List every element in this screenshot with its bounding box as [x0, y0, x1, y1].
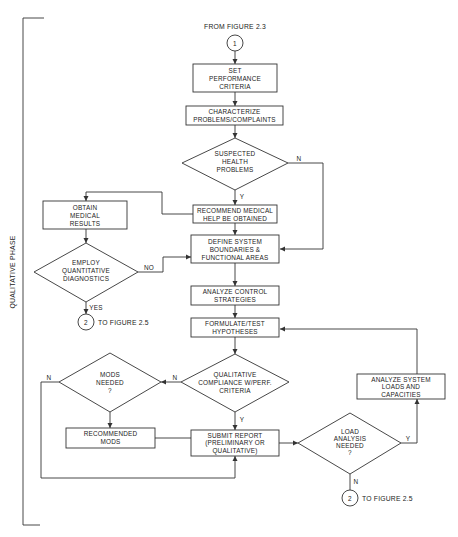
node-text: RESULTS	[70, 220, 100, 227]
node-text: MODS	[101, 438, 121, 445]
node-text: SUSPECTED	[215, 150, 256, 157]
node-analyze-control-strategies: ANALYZE CONTROL STRATEGIES	[191, 286, 279, 305]
node-text: ANALYZE SYSTEM	[371, 376, 431, 383]
node-text: OBTAIN	[73, 204, 98, 211]
node-text: QUANTITATIVE	[62, 267, 110, 275]
connector-to-figure-2-5-bottom: 2 TO FIGURE 2.5	[342, 490, 413, 506]
node-text: NEEDED	[336, 442, 364, 449]
node-text: CRITERIA	[219, 387, 251, 394]
node-define-system-boundaries: DEFINE SYSTEM BOUNDARIES & FUNCTIONAL AR…	[191, 235, 279, 263]
edge-label: N	[47, 374, 52, 381]
edge-label: N	[297, 155, 302, 162]
decision-qualitative-compliance: QUALITATIVE COMPLIANCE W/PERF. CRITERIA	[181, 354, 289, 412]
node-text: LOADS AND	[382, 383, 421, 390]
connector-number: 1	[233, 40, 237, 47]
node-text: COMPLIANCE W/PERF.	[198, 379, 272, 386]
decision-load-analysis-needed: LOAD ANALYSIS NEEDED ?	[298, 413, 401, 474]
node-recommended-mods: RECOMMENDED MODS	[66, 428, 155, 448]
edge-label: Y	[240, 193, 245, 200]
node-text: CAPACITIES	[381, 391, 421, 398]
node-text: NEEDED	[96, 379, 124, 386]
node-set-performance-criteria: SET PERFORMANCE CRITERIA	[193, 64, 277, 92]
node-text: PROBLEMS/COMPLAINTS	[193, 116, 276, 123]
connector-from-figure-2-3: FROM FIGURE 2.3 1	[204, 23, 266, 51]
node-obtain-medical-results: OBTAIN MEDICAL RESULTS	[43, 201, 127, 229]
node-text: SET	[228, 67, 241, 74]
connector-caption: TO FIGURE 2.5	[362, 495, 413, 502]
node-analyze-system-loads: ANALYZE SYSTEM LOADS AND CAPACITIES	[357, 374, 445, 399]
connector-number: 2	[348, 495, 352, 502]
node-text: PROBLEMS	[216, 166, 253, 173]
node-text: RECOMMENDED	[84, 430, 138, 437]
node-text: EMPLOY	[72, 259, 100, 266]
node-text: PERFORMANCE	[209, 75, 261, 82]
node-text: HEALTH	[222, 158, 248, 165]
node-text: MODS	[100, 371, 120, 378]
node-text: HELP BE OBTAINED	[203, 215, 267, 222]
flowchart: QUALITATIVE PHASE FROM FIGURE 2.3 1 SET …	[0, 0, 458, 537]
edge-label: Y	[406, 435, 411, 442]
connector-caption: FROM FIGURE 2.3	[204, 23, 266, 30]
node-text: FUNCTIONAL AREAS	[202, 254, 269, 261]
edge-label: N	[354, 478, 359, 485]
connector-to-figure-2-5-left: 2 TO FIGURE 2.5	[78, 314, 149, 330]
node-characterize-problems: CHARACTERIZE PROBLEMS/COMPLAINTS	[186, 106, 283, 125]
node-text: ?	[108, 387, 112, 394]
node-text: DEFINE SYSTEM	[208, 238, 262, 245]
node-text: ?	[348, 449, 352, 456]
decision-mods-needed: MODS NEEDED ?	[59, 353, 161, 412]
node-text: CHARACTERIZE	[208, 108, 260, 115]
decision-suspected-health-problems: SUSPECTED HEALTH PROBLEMS	[182, 138, 288, 190]
edge-label: Y	[240, 416, 245, 423]
edge-label: NO	[144, 264, 154, 271]
edge-label: N	[173, 374, 178, 381]
connector-number: 2	[84, 319, 88, 326]
node-text: STRATEGIES	[214, 296, 256, 303]
node-text: FORMULATE/TEST	[205, 320, 265, 327]
node-text: BOUNDARIES &	[210, 246, 261, 253]
node-text: ANALYSIS	[334, 435, 366, 442]
node-submit-report: SUBMIT REPORT (PRELIMINARY OR QUALITATIV…	[191, 430, 279, 456]
node-text: RECOMMEND MEDICAL	[197, 207, 273, 214]
node-recommend-medical-help: RECOMMEND MEDICAL HELP BE OBTAINED	[193, 205, 277, 223]
node-text: MEDICAL	[70, 212, 100, 219]
node-text: DIAGNOSTICS	[63, 275, 109, 282]
node-text: CRITERIA	[219, 83, 251, 90]
decision-employ-quantitative-diagnostics: EMPLOY QUANTITATIVE DIAGNOSTICS	[34, 243, 138, 302]
edge-label: YES	[89, 304, 102, 311]
node-text: ANALYZE CONTROL	[203, 288, 268, 295]
node-text: SUBMIT REPORT	[208, 432, 263, 439]
node-text: HYPOTHESES	[212, 328, 258, 335]
node-text: QUALITATIVE)	[212, 447, 257, 455]
node-text: QUALITATIVE	[214, 371, 257, 379]
node-formulate-test-hypotheses: FORMULATE/TEST HYPOTHESES	[191, 318, 279, 337]
connector-caption: TO FIGURE 2.5	[98, 319, 149, 326]
node-text: LOAD	[341, 428, 359, 435]
phase-label: QUALITATIVE PHASE	[9, 235, 17, 308]
